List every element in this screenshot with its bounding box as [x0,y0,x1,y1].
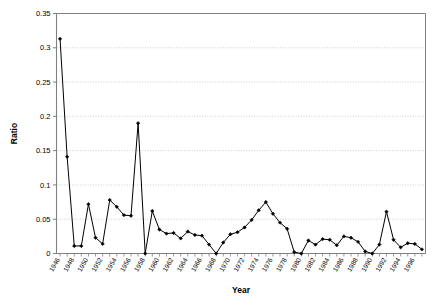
x-tick-label: 1954 [104,256,118,272]
x-tick-label: 1962 [161,256,175,272]
x-tick-label: 1960 [147,256,161,272]
y-tick-label: 0.1 [40,181,50,190]
grid-lines [57,14,426,220]
x-tick-label: 1984 [317,256,331,272]
x-tick-label: 1968 [204,256,218,272]
x-tick-label: 1948 [62,256,76,272]
data-point-marker [87,202,90,205]
data-series-markers [58,37,423,255]
x-axis-title: Year [232,285,251,295]
x-tick-label: 1992 [374,256,388,272]
x-tick-label: 1952 [90,256,104,272]
y-tick-label: 0 [46,249,50,258]
x-axis-tick-labels: 1946194819501952195419561958196019621964… [48,256,416,272]
x-tick-label: 1996 [402,256,416,272]
x-tick-label: 1976 [260,256,274,272]
plot-frame [57,14,426,254]
y-axis-tick-labels: 00.050.10.150.20.250.30.35 [36,9,51,258]
x-tick-label: 1966 [189,256,203,272]
x-tick-label: 1982 [303,256,317,272]
x-tick-label: 1986 [331,256,345,272]
data-point-marker [58,37,61,40]
chart-canvas: 00.050.10.150.20.250.30.35 1946194819501… [0,0,445,307]
data-point-marker [385,210,388,213]
x-tick-label: 1958 [133,256,147,272]
x-tick-label: 1946 [48,256,62,272]
ratio-by-year-chart: 00.050.10.150.20.250.30.35 1946194819501… [0,0,445,307]
y-tick-label: 0.15 [36,146,51,155]
data-point-marker [65,155,68,158]
x-tick-label: 1964 [175,256,189,272]
data-point-marker [136,122,139,125]
x-tick-label: 1972 [232,256,246,272]
x-tick-label: 1950 [76,256,90,272]
x-tick-label: 1974 [246,256,260,272]
y-axis-title: Ratio [9,123,19,144]
data-point-marker [193,233,196,236]
data-point-marker [73,244,76,247]
data-point-marker [144,252,147,255]
x-tick-label: 1990 [360,256,374,272]
x-tick-label: 1978 [275,256,289,272]
x-tick-label: 1980 [289,256,303,272]
x-tick-label: 1994 [388,256,402,272]
data-point-marker [129,214,132,217]
data-point-marker [151,209,154,212]
x-tick-label: 1956 [118,256,132,272]
y-tick-label: 0.3 [40,43,50,52]
data-point-marker [80,244,83,247]
y-tick-label: 0.35 [36,9,51,18]
y-tick-label: 0.2 [40,112,50,121]
y-tick-label: 0.05 [36,215,51,224]
x-tick-label: 1988 [346,256,360,272]
x-tick-label: 1970 [218,256,232,272]
series-ratio-line [60,39,422,254]
data-series-line [60,39,422,254]
y-tick-label: 0.25 [36,78,51,87]
